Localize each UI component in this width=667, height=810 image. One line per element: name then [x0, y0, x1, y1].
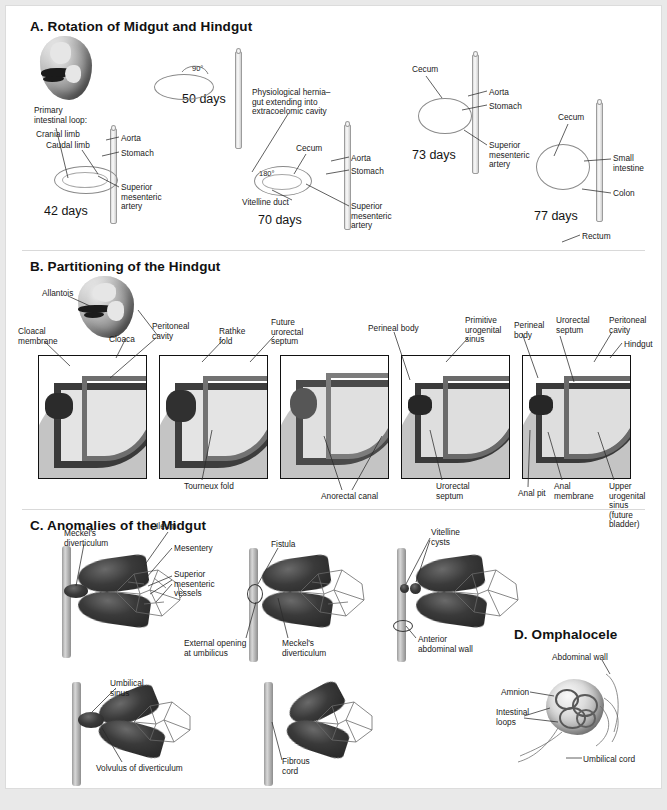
label-urorectal-septum-bottom: Urorectal septum	[436, 482, 470, 501]
label-meckels-diverticulum-1: Meckel's diverticulum	[64, 529, 108, 548]
label-upper-urogenital-sinus: Upper urogenital sinus (future bladder)	[609, 482, 645, 530]
diverticulum-tip-c1	[64, 584, 88, 598]
label-sma-42: Superior mesenteric artery	[121, 183, 162, 212]
label-colon: Colon	[613, 189, 635, 199]
panel-a-title: A. Rotation of Midgut and Hindgut	[30, 19, 252, 34]
label-physiological-hernia: Physiological hernia– gut extending into…	[252, 88, 330, 117]
label-anal-pit: Anal pit	[518, 489, 546, 499]
label-fistula: Fistula	[271, 540, 295, 550]
hindgut-stage-box-5	[522, 355, 631, 479]
mesentery-vessels-svg-c4	[132, 698, 194, 746]
label-perineal-body-2: Perineal body	[514, 321, 544, 340]
panel-b-title: B. Partitioning of the Hindgut	[30, 259, 220, 274]
day-label-42: 42 days	[44, 204, 88, 218]
vitelline-cyst-2	[410, 583, 421, 594]
abdominal-wall-cord-c4	[72, 682, 81, 786]
gut-loop-50	[154, 74, 214, 100]
label-meckels-diverticulum-2: Meckel's diverticulum	[282, 639, 326, 658]
mesentery-mesh-c5	[314, 698, 376, 746]
label-mesentery: Mesentery	[174, 544, 213, 554]
label-stomach-73: Stomach	[489, 102, 522, 112]
label-intestinal-loops: Intestinal loops	[496, 708, 529, 727]
label-umbilical-sinus: Umbilical sinus	[110, 679, 144, 698]
panel-divider-b-c	[22, 509, 645, 510]
gut-coil-73	[418, 98, 472, 134]
abdominal-wall-cord-c5	[264, 682, 273, 786]
label-urorectal-septum-top: Urorectal septum	[556, 316, 590, 335]
label-umbilical-cord: Umbilical cord	[583, 755, 635, 765]
label-cloaca: Cloaca	[109, 335, 135, 345]
fistula-opening-ring	[247, 584, 263, 604]
hindgut-stage-box-3	[280, 355, 389, 479]
label-abdominal-wall: Abdominal wall	[552, 653, 608, 663]
body-axis-pole-70	[344, 124, 351, 230]
label-rathke-fold: Rathke fold	[219, 327, 245, 346]
body-axis-pole-50	[235, 51, 242, 149]
gut-loop-70-inner	[262, 174, 302, 190]
abdominal-wall-cord-c3	[397, 548, 406, 662]
label-anal-membrane: Anal membrane	[554, 482, 594, 501]
label-tourneux-fold: Tourneux fold	[184, 482, 234, 492]
label-hindgut: Hindgut	[624, 340, 653, 350]
figure-card: A. Rotation of Midgut and Hindgut Primar…	[6, 6, 661, 788]
label-peritoneal-cavity-2: Peritoneal cavity	[609, 316, 646, 335]
label-anorectal-canal: Anorectal canal	[321, 492, 378, 502]
hindgut-stage-box-1	[38, 355, 147, 479]
omphalocele-sac	[546, 679, 604, 735]
label-caudal-limb: Caudal limb	[46, 141, 90, 151]
embryo-thumbnail-a	[40, 36, 92, 100]
panel-c-title: C. Anomalies of the Midgut	[30, 518, 206, 533]
label-cecum-77: Cecum	[558, 113, 584, 123]
label-rectum: Rectum	[582, 232, 611, 242]
hindgut-stage-box-4	[401, 355, 510, 479]
vitelline-cyst-1	[400, 584, 409, 593]
gut-coil-77	[536, 144, 590, 190]
label-sma-73: Superior mesenteric artery	[489, 141, 530, 170]
label-fibrous-cord: Fibrous cord	[282, 757, 310, 776]
label-vitelline-cysts: Vitelline cysts	[431, 528, 460, 547]
mesentery-vessels-svg-c3	[452, 564, 522, 620]
label-primary-intestinal-loop: Primary intestinal loop:	[34, 106, 87, 125]
label-rotation-90: 90°	[192, 64, 203, 74]
anterior-wall-ring	[393, 620, 413, 632]
label-aorta-73: Aorta	[489, 88, 509, 98]
hindgut-stage-box-2	[159, 355, 268, 479]
embryo-thumbnail-b	[78, 276, 134, 338]
label-volvulus-of-diverticulum: Volvulus of diverticulum	[96, 764, 183, 774]
label-amnion: Amnion	[501, 688, 529, 698]
label-primitive-urogenital-sinus: Primitive urogenital sinus	[465, 316, 501, 345]
body-axis-pole-77	[596, 102, 603, 222]
label-aorta-70: Aorta	[351, 154, 371, 164]
panel-d-title: D. Omphalocele	[514, 627, 617, 642]
label-external-opening-at-umbilicus: External opening at umbilicus	[184, 639, 246, 658]
label-cloacal-membrane: Cloacal membrane	[18, 327, 58, 346]
label-stomach-70: Stomach	[351, 167, 384, 177]
label-stomach-42: Stomach	[121, 149, 154, 159]
label-cranial-limb: Cranial limb	[36, 130, 80, 140]
label-ileum: Ileum	[156, 522, 176, 532]
label-sma-70: Superior mesenteric artery	[351, 202, 392, 231]
label-small-intestine: Small intestine	[613, 154, 644, 173]
mesentery-mesh-c4	[132, 698, 194, 746]
label-superior-mesenteric-vessels: Superior mesenteric vessels	[174, 570, 215, 599]
abdominal-wall-cord-c2	[249, 548, 258, 662]
label-vitelline-duct: Vitelline duct	[242, 198, 289, 208]
body-axis-pole-73	[472, 54, 479, 174]
label-anterior-abdominal-wall: Anterior abdominal wall	[418, 635, 473, 654]
day-label-77: 77 days	[534, 209, 578, 223]
day-label-70: 70 days	[258, 213, 302, 227]
mesentery-vessels-svg-c5	[314, 698, 376, 746]
day-label-73: 73 days	[412, 148, 456, 162]
label-allantois: Allantois	[42, 289, 73, 299]
abdominal-wall-cord-c1	[62, 546, 71, 658]
mesentery-mesh-c2	[298, 564, 368, 620]
label-aorta-42: Aorta	[121, 134, 141, 144]
panel-divider-a-b	[22, 250, 645, 251]
label-future-urorectal-septum: Future urorectal septum	[271, 318, 303, 347]
label-peritoneal-cavity-1: Peritoneal cavity	[152, 322, 189, 341]
label-cecum-73: Cecum	[412, 65, 438, 75]
label-perineal-body-1: Perineal body	[368, 324, 419, 334]
mesentery-mesh-c3	[452, 564, 522, 620]
gut-loop-42-inner	[62, 172, 108, 188]
volvulus-twist	[78, 712, 104, 728]
